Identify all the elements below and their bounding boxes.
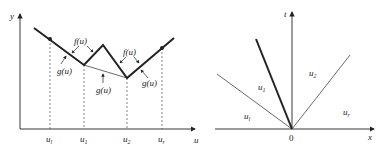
x-axis-label: x: [367, 132, 372, 142]
region-u2: u2: [309, 68, 317, 79]
region-u1: u1: [258, 82, 266, 93]
t-axis-label: t: [284, 9, 287, 19]
g-hull-line: [84, 65, 127, 78]
wave-right: [292, 55, 350, 129]
right-plot: t x 0 ul u1 u2 ur: [215, 9, 374, 143]
tick-ul: ul: [46, 134, 53, 145]
tick-u1: u1: [80, 134, 88, 145]
y-axis-label: y: [9, 11, 14, 21]
origin-label: 0: [289, 133, 294, 143]
point-ur: [160, 46, 164, 50]
label-g-mid: g(u): [96, 85, 111, 95]
u-axis-label: u: [194, 135, 199, 145]
label-f1: f(u): [74, 36, 87, 46]
f-curve: [34, 28, 174, 78]
label-g1: g(u): [57, 66, 72, 76]
diagram-canvas: y u f(u) g(u) g(u) f(u) g(u): [0, 0, 386, 149]
tick-u2: u2: [123, 134, 131, 145]
region-ul: ul: [244, 111, 251, 122]
label-g2: g(u): [142, 78, 157, 88]
label-f2: f(u): [123, 47, 136, 57]
point-ul: [48, 37, 52, 41]
region-ur: ur: [343, 107, 351, 118]
left-plot: y u f(u) g(u) g(u) f(u) g(u): [9, 11, 199, 145]
tick-ur: ur: [158, 134, 166, 145]
